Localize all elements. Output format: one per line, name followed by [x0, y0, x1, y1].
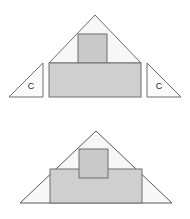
assembled-figure — [20, 131, 172, 203]
exploded-figure: C C — [9, 15, 181, 97]
left-corner-triangle-shape — [9, 63, 43, 97]
right-corner-triangle: C — [147, 63, 181, 97]
exploded-inner-square — [78, 34, 107, 63]
dissection-diagram: C C — [0, 0, 190, 219]
left-corner-triangle-label: C — [28, 81, 35, 91]
exploded-base-rectangle — [49, 63, 141, 97]
right-corner-triangle-label: C — [156, 81, 163, 91]
left-corner-triangle: C — [9, 63, 43, 97]
assembled-inner-square — [79, 149, 108, 178]
diagram-canvas: C C — [0, 0, 190, 219]
right-corner-triangle-shape — [147, 63, 181, 97]
